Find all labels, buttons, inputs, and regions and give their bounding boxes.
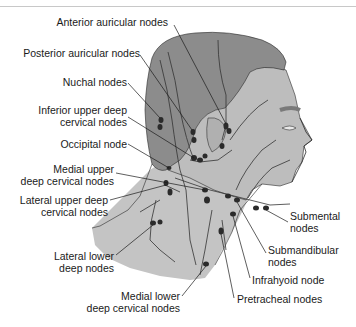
label-lateral-lower-deep-nodes: Lateral lower deep nodes	[54, 250, 114, 274]
label-medial-lower-deep-cervical-nodes: Medial lower deep cervical nodes	[87, 290, 180, 314]
node-lateral-upper-deep	[168, 189, 173, 196]
label-line: nodes	[290, 222, 340, 234]
node-medial-upper-deep	[204, 197, 210, 204]
label-line: deep cervical nodes	[87, 302, 180, 314]
node-lateral-lower-deep	[158, 220, 163, 225]
leader-submental	[266, 210, 288, 222]
eyebrow	[280, 108, 300, 110]
label-line: Medial lower	[87, 290, 180, 302]
node-medial-lower-deep	[203, 262, 209, 267]
node-posterior-auricular	[191, 129, 196, 135]
node-nuchal	[158, 124, 163, 130]
node-submental	[253, 206, 259, 211]
node-lateral-lower-deep	[150, 221, 156, 226]
node-pretracheal	[219, 228, 224, 235]
label-lateral-upper-deep-cervical-nodes: Lateral upper deep cervical nodes	[20, 194, 108, 218]
label-pretracheal-nodes: Pretracheal nodes	[237, 293, 322, 305]
label-line: nodes	[268, 256, 339, 268]
label-medial-upper-deep-cervical-nodes: Medial upper deep cervical nodes	[21, 163, 114, 187]
leader-pretracheal	[221, 234, 234, 298]
label-infrahyoid-node: Infrahyoid node	[252, 274, 324, 286]
label-submandibular-nodes: Submandibular nodes	[268, 244, 339, 268]
node-posterior-auricular	[192, 137, 197, 143]
label-line: Submental	[290, 210, 340, 222]
label-line: cervical nodes	[20, 206, 108, 218]
label-submental-nodes: Submental nodes	[290, 210, 340, 234]
label-line: Lateral lower	[54, 250, 114, 262]
label-line: deep nodes	[54, 262, 114, 274]
label-line: Submandibular	[268, 244, 339, 256]
node-nuchal	[159, 117, 164, 123]
label-nuchal-nodes: Nuchal nodes	[63, 76, 127, 88]
node-occipital-cluster	[203, 154, 208, 159]
label-line: deep cervical nodes	[21, 175, 114, 187]
label-inferior-upper-deep-cervical-nodes: Inferior upper deep cervical nodes	[38, 104, 127, 128]
label-line: Medial upper	[21, 163, 114, 175]
node-submandibular	[225, 194, 231, 199]
node-anterior-auricular	[220, 143, 225, 149]
label-anterior-auricular-nodes: Anterior auricular nodes	[57, 16, 168, 28]
label-line: Inferior upper deep	[38, 104, 127, 116]
node-anterior-auricular	[227, 128, 232, 134]
label-posterior-auricular-nodes: Posterior auricular nodes	[23, 47, 140, 59]
label-occipital-node: Occipital node	[60, 138, 127, 150]
label-line: cervical nodes	[38, 116, 127, 128]
node-occipital-cluster	[197, 158, 203, 163]
leader-infrahyoid	[233, 216, 250, 278]
node-submental	[263, 206, 269, 211]
label-line: Lateral upper deep	[20, 194, 108, 206]
node-submandibular	[234, 198, 240, 203]
node-infrahyoid	[230, 212, 236, 217]
